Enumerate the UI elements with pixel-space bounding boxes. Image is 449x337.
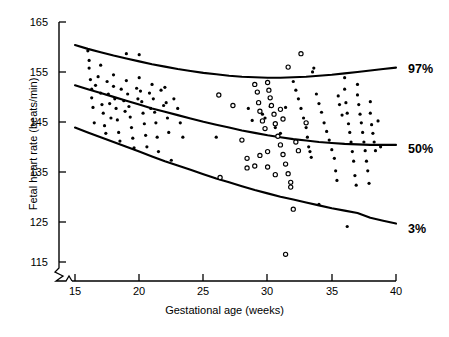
data-point-filled <box>120 88 123 91</box>
data-point-filled <box>130 126 133 129</box>
data-point-filled <box>176 107 179 110</box>
data-point-filled <box>369 112 372 115</box>
data-point-open <box>291 207 295 211</box>
y-axis-title: Fetal heart rate (beats/min) <box>27 49 39 239</box>
data-point-filled <box>107 92 110 95</box>
data-point-filled <box>116 118 119 121</box>
data-point-filled <box>102 112 105 115</box>
data-point-filled <box>172 97 175 100</box>
data-point-filled <box>356 93 359 96</box>
data-point-open <box>273 173 277 177</box>
data-point-open <box>245 166 249 170</box>
data-point-open <box>263 126 267 130</box>
data-point-filled <box>366 169 369 172</box>
data-point-filled <box>106 80 109 83</box>
data-point-filled <box>251 119 254 122</box>
data-point-filled <box>138 53 141 56</box>
percentile-label-97: 97% <box>408 62 433 76</box>
percentile-label-3: 3% <box>408 222 426 236</box>
data-point-filled <box>352 160 355 163</box>
data-point-filled <box>104 132 107 135</box>
data-point-filled <box>100 103 103 106</box>
data-point-filled <box>170 159 173 162</box>
data-point-filled <box>310 156 313 159</box>
data-point-filled <box>362 140 365 143</box>
percentile-curve-97 <box>75 45 396 78</box>
data-point-filled <box>333 157 336 160</box>
data-point-open <box>266 150 270 154</box>
data-point-open <box>289 180 293 184</box>
data-point-filled <box>305 126 308 129</box>
data-point-filled <box>109 116 112 119</box>
data-point-filled <box>103 124 106 127</box>
data-point-filled <box>360 121 363 124</box>
data-point-filled <box>370 123 373 126</box>
data-point-open <box>294 140 298 144</box>
data-point-filled <box>152 97 155 100</box>
data-point-filled <box>150 83 153 86</box>
data-point-filled <box>353 174 356 177</box>
data-point-filled <box>179 121 182 124</box>
data-point-filled <box>153 111 156 114</box>
data-point-open <box>240 138 244 142</box>
data-point-filled <box>132 146 135 149</box>
percentile-curves <box>75 45 396 224</box>
data-point-filled <box>376 119 379 122</box>
data-point-open <box>286 172 290 176</box>
data-point-open <box>258 153 262 157</box>
data-point-filled <box>215 136 218 139</box>
data-point-filled <box>371 132 374 135</box>
data-point-filled <box>364 149 367 152</box>
data-point-filled <box>294 89 297 92</box>
data-point-filled <box>122 99 125 102</box>
x-tick-label-20: 20 <box>126 285 152 297</box>
data-point-open <box>283 252 287 256</box>
data-point-filled <box>138 76 141 79</box>
data-point-open <box>266 165 270 169</box>
data-point-filled <box>131 137 134 140</box>
data-point-open <box>255 90 259 94</box>
data-point-filled <box>127 105 130 108</box>
data-point-open <box>289 185 293 189</box>
data-point-filled <box>346 225 349 228</box>
data-point-open <box>272 112 276 116</box>
data-point-filled <box>126 92 129 95</box>
data-point-filled <box>118 139 121 142</box>
data-point-filled <box>125 79 128 82</box>
fetal-heart-rate-scatter-figure: 165 155 145 135 125 115 15 20 25 30 35 4… <box>0 0 449 337</box>
data-point-filled <box>93 121 96 124</box>
x-tick-label-40: 40 <box>383 285 409 297</box>
data-point-filled <box>373 140 376 143</box>
y-axis-ticks <box>59 22 66 262</box>
data-point-filled <box>159 89 162 92</box>
x-tick-label-15: 15 <box>62 285 88 297</box>
x-tick-label-35: 35 <box>319 285 345 297</box>
data-point-filled <box>292 80 295 83</box>
y-tick-label-165: 165 <box>22 16 48 28</box>
data-point-open <box>281 152 285 156</box>
data-point-filled <box>88 66 91 69</box>
data-point-filled <box>306 136 309 139</box>
data-point-open <box>304 121 308 125</box>
data-point-open <box>218 175 222 179</box>
data-point-filled <box>145 145 148 148</box>
x-tick-label-30: 30 <box>254 285 280 297</box>
data-point-filled <box>343 76 346 79</box>
data-point-filled <box>346 112 349 115</box>
data-point-filled <box>356 83 359 86</box>
observation-points <box>86 49 382 256</box>
data-point-open <box>267 88 271 92</box>
data-point-filled <box>367 182 370 185</box>
data-point-filled <box>139 90 142 93</box>
data-point-filled <box>299 107 302 110</box>
data-point-filled <box>114 107 117 110</box>
data-point-filled <box>347 122 350 125</box>
data-point-filled <box>317 203 320 206</box>
data-point-open <box>266 80 270 84</box>
x-axis-title: Gestational age (weeks) <box>0 304 449 316</box>
data-point-filled <box>125 52 128 55</box>
data-point-filled <box>330 148 333 151</box>
data-point-filled <box>99 64 102 67</box>
data-point-filled <box>247 107 250 110</box>
data-point-filled <box>348 131 351 134</box>
